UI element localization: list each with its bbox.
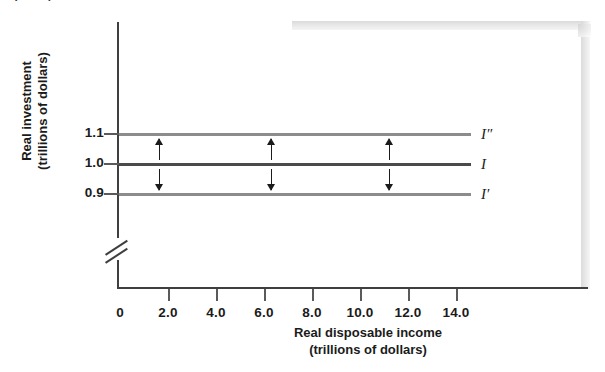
shift-up-arrow-icon [267, 139, 276, 160]
x-tick-mark [312, 289, 314, 301]
shift-up-arrow-icon [385, 139, 394, 160]
x-axis-title: Real disposable income (trillions of dol… [238, 324, 498, 358]
investment-line-i-double-prime [119, 133, 471, 136]
x-axis-title-main: Real disposable income [238, 324, 498, 341]
series-label-i-double-prime: I″ [481, 126, 492, 143]
y-axis-title: Real investment (trillions of dollars) [19, 16, 51, 206]
y-axis-title-main: Real investment [19, 16, 35, 206]
investment-line-i-prime [119, 193, 471, 196]
y-tick-mark [104, 193, 119, 195]
x-tick-mark [360, 289, 362, 301]
y-tick-mark [104, 133, 119, 135]
panel-shadow-right [581, 21, 590, 289]
y-tick-mark [104, 163, 119, 165]
y-tick-label: 0.9 [68, 185, 104, 200]
investment-line-i [119, 163, 471, 166]
series-label-i: I [481, 156, 486, 173]
investment-shift-chart: b) An upward shift from I to I″ 1.1 1.0 … [0, 0, 605, 372]
panel-shadow-corner [578, 24, 591, 37]
x-axis-line [117, 287, 588, 289]
x-axis-title-units: (trillions of dollars) [238, 341, 498, 358]
x-tick-mark [168, 289, 170, 301]
shift-down-arrow-icon [155, 169, 164, 190]
x-tick-mark [264, 289, 266, 301]
x-tick-label: 14.0 [426, 305, 486, 320]
y-tick-label: 1.0 [68, 155, 104, 170]
figure-caption-fragment: b) An upward shift from I to I″ [8, 0, 268, 5]
panel-shadow-top [292, 21, 590, 30]
shift-down-arrow-icon [267, 169, 276, 190]
series-label-i-prime: I′ [481, 186, 489, 203]
x-tick-mark [456, 289, 458, 301]
y-axis-break-icon [104, 234, 132, 264]
y-axis-title-units: (trillions of dollars) [35, 16, 51, 206]
x-tick-mark [408, 289, 410, 301]
shift-down-arrow-icon [385, 169, 394, 190]
y-tick-label: 1.1 [68, 125, 104, 140]
shift-up-arrow-icon [155, 139, 164, 160]
x-tick-mark [216, 289, 218, 301]
